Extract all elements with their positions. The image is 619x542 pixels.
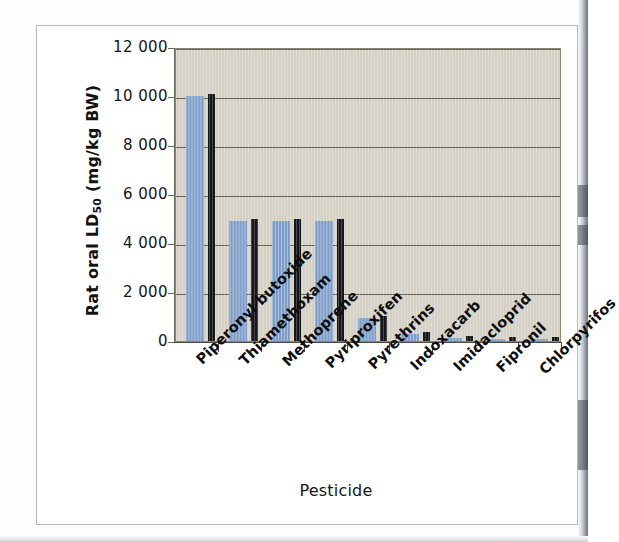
y-axis-tick (168, 195, 175, 196)
bar-shadow (208, 94, 215, 341)
y-axis-tick-label: 10 000 (82, 87, 168, 105)
bar-shadow (294, 219, 301, 341)
gridline (176, 49, 560, 50)
x-axis-title-text: Pesticide (299, 481, 372, 500)
bar-shadow (337, 219, 344, 341)
y-axis-tick (168, 244, 175, 245)
y-axis-tick (168, 293, 175, 294)
scan-edge-band (578, 225, 588, 245)
y-axis-tick-label: 4 000 (82, 234, 168, 252)
gridline (176, 196, 560, 197)
bar-shadow (251, 219, 258, 341)
plot-area (175, 48, 561, 342)
y-axis-tick-label: 12 000 (82, 38, 168, 56)
y-axis-tick (168, 97, 175, 98)
bar-shadow (552, 337, 559, 341)
chart-figure-card: Rat oral LD50 (mg/kg BW) 02 0004 0006 00… (36, 25, 578, 525)
bar-fill (186, 96, 204, 341)
bar (186, 94, 215, 341)
scan-right-edge-shadow (578, 0, 588, 542)
gridline (176, 98, 560, 99)
y-axis-tick (168, 48, 175, 49)
bar-shadow (509, 337, 516, 341)
y-axis-tick (168, 146, 175, 147)
gridline (176, 147, 560, 148)
x-axis-category-labels: Piperonyl butoxideThiamethoxamMethoprene… (37, 342, 579, 482)
scan-edge-band (578, 185, 588, 217)
scan-bottom-edge-shadow (0, 536, 588, 542)
y-axis-tick-label: 6 000 (82, 185, 168, 203)
x-axis-title: Pesticide (37, 481, 579, 500)
y-axis-tick-label: 2 000 (82, 283, 168, 301)
y-axis-tick-label: 8 000 (82, 136, 168, 154)
y-axis-tick-labels: 02 0004 0006 0008 00010 00012 000 (73, 26, 168, 366)
scan-edge-band (578, 400, 588, 470)
